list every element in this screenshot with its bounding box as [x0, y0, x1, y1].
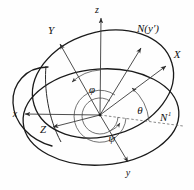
node-line-upper-label: N(y′): [136, 22, 159, 35]
axis-x-label: x: [12, 108, 18, 119]
rigid-body-seam: [46, 66, 61, 142]
axis-z-line: [100, 18, 101, 115]
euler-angles-figure: z Y N(y′) X x Z φ θ ψ y N 1: [0, 0, 194, 190]
node-line-base-label-group: N 1: [159, 110, 171, 123]
angle-theta-label: θ: [137, 104, 143, 116]
angle-phi-label: φ: [89, 83, 95, 95]
axis-X-line: [100, 66, 166, 115]
axis-Z-label: Z: [40, 123, 47, 135]
axis-z-label: z: [94, 4, 99, 15]
axis-X-label: X: [173, 48, 182, 60]
axis-Z-line: [53, 115, 100, 127]
origin-point: [99, 114, 102, 117]
axis-y-label: y: [125, 167, 131, 178]
node-line-N-yprime: [100, 48, 141, 115]
euler-angles-svg: z Y N(y′) X x Z φ θ ψ y N 1: [0, 0, 194, 190]
rigid-body-outline-left-lobe: [13, 67, 52, 146]
angle-psi-label: ψ: [109, 132, 116, 144]
axis-x-line: [25, 114, 100, 115]
node-line-base-superscript: 1: [168, 110, 171, 117]
axis-Y-label: Y: [48, 24, 56, 36]
node-line-base-label: N: [159, 111, 168, 123]
axis-Y-line: [60, 44, 100, 115]
